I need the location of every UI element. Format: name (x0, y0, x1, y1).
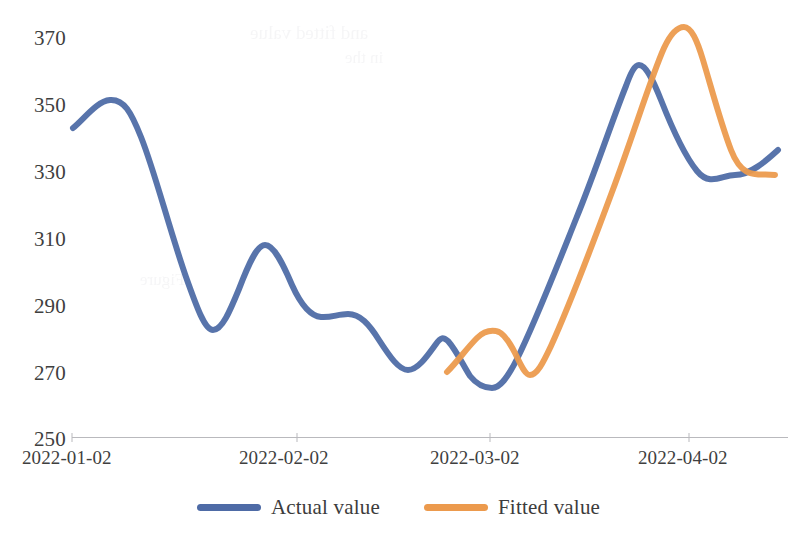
y-axis-tick-330: 330 (14, 160, 66, 185)
y-axis-tick-270: 270 (14, 361, 66, 386)
y-axis-tick-310: 310 (14, 227, 66, 252)
legend-swatch-fitted-value-icon (424, 504, 488, 511)
chart-legend: Actual value Fitted value (0, 487, 797, 527)
series-line-fitted-value (447, 27, 775, 375)
x-axis-tick-2022-01-02: 2022-01-02 (22, 447, 112, 469)
x-axis-tick-2022-02-02: 2022-02-02 (239, 447, 329, 469)
series-line-actual-value (73, 65, 778, 388)
y-axis-tick-290: 290 (14, 294, 66, 319)
y-axis-tick-350: 350 (14, 93, 66, 118)
legend-item-actual-value[interactable]: Actual value (197, 495, 380, 520)
y-axis-tick-370: 370 (14, 26, 66, 51)
legend-label-fitted-value: Fitted value (498, 495, 600, 520)
line-chart: and fitted value in the Figure 370 350 3… (0, 0, 797, 538)
x-axis-tick-2022-03-02: 2022-03-02 (430, 447, 520, 469)
legend-label-actual-value: Actual value (271, 495, 380, 520)
legend-swatch-actual-value-icon (197, 504, 261, 511)
x-axis-tick-2022-04-02: 2022-04-02 (638, 447, 728, 469)
legend-item-fitted-value[interactable]: Fitted value (424, 495, 600, 520)
